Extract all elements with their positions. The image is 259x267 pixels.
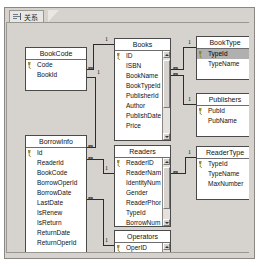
cardinality-many-borrowinfo-bookcode: ∞ <box>88 143 93 149</box>
field-row[interactable]: ReturnDate <box>26 228 86 238</box>
table-field-list[interactable]: IdReaderIdBookCodeBorrowOperIdBorrowDate… <box>26 148 86 253</box>
field-row[interactable]: BookCode <box>26 168 86 178</box>
field-row[interactable]: BookId <box>26 70 86 80</box>
field-row[interactable]: PubId <box>197 106 249 116</box>
cardinality-one-borrowinfo-bookcode: 1 <box>97 69 100 75</box>
cardinality-many-books-publishers: ∞ <box>173 71 178 77</box>
table-title: ReaderType <box>197 147 249 159</box>
field-name: BookId <box>37 71 57 78</box>
field-row[interactable]: Gender <box>115 188 161 198</box>
table-publishers[interactable]: PublishersPubIdPubName <box>196 93 249 137</box>
field-name: BookName <box>126 72 158 79</box>
field-row[interactable]: Code <box>26 60 86 70</box>
field-row[interactable]: ReaderPhone <box>115 198 161 208</box>
field-name: ReturnOperId <box>37 239 76 246</box>
field-row[interactable]: IsReturn <box>26 218 86 228</box>
field-name: Code <box>37 61 53 68</box>
primary-key-icon <box>117 53 124 60</box>
scroll-up-icon[interactable] <box>163 158 170 165</box>
table-field-list[interactable]: TypeIdTypeName <box>197 49 249 79</box>
cardinality-many-readers-readertype: ∞ <box>173 169 178 175</box>
field-row[interactable]: PublishDate <box>115 111 161 121</box>
field-name: Id <box>37 149 42 156</box>
vertical-scrollbar[interactable] <box>162 158 170 226</box>
field-row[interactable]: Id <box>26 148 86 158</box>
scroll-up-icon[interactable] <box>163 51 170 58</box>
field-row[interactable]: ISBN <box>115 61 161 71</box>
primary-key-icon <box>28 150 35 157</box>
field-row[interactable]: IsRenew <box>26 208 86 218</box>
field-row[interactable]: BookName <box>115 71 161 81</box>
field-row[interactable]: ReaderId <box>26 158 86 168</box>
field-row[interactable]: IdentityNum <box>115 178 161 188</box>
primary-key-icon <box>117 160 124 167</box>
field-name: BorrowOperId <box>37 179 77 186</box>
table-booktype[interactable]: BookTypeTypeIdTypeName <box>196 36 249 80</box>
field-name: ID <box>126 52 133 59</box>
field-row[interactable]: TypeName <box>197 169 249 179</box>
field-row[interactable]: LastDate <box>26 198 86 208</box>
table-field-list[interactable]: ReaderIDReaderNameIdentityNumGenderReade… <box>115 158 170 226</box>
table-field-list[interactable]: IDISBNBookNameBookTypeIdPublisherIdAutho… <box>115 51 170 140</box>
field-row[interactable]: OperID <box>115 243 161 253</box>
field-row[interactable]: ID <box>115 51 161 61</box>
connector-borrowinfo-readers <box>87 159 114 173</box>
table-field-list[interactable]: PubIdPubName <box>197 106 249 136</box>
connector-borrowinfo-bookcode <box>87 77 95 147</box>
field-rows: IdReaderIdBookCodeBorrowOperIdBorrowDate… <box>26 148 86 253</box>
table-title: BookCode <box>26 48 86 60</box>
table-operators[interactable]: OperatorsOperIDOperNameGenderLoginName <box>114 230 171 253</box>
field-row[interactable]: ReaderID <box>115 158 161 168</box>
cardinality-many-bookcode-books: ∞ <box>88 65 93 71</box>
primary-key-icon <box>199 51 206 58</box>
vertical-scrollbar[interactable] <box>162 243 170 253</box>
table-readers[interactable]: ReadersReaderIDReaderNameIdentityNumGend… <box>114 145 171 227</box>
field-row[interactable]: BorrowDate <box>26 188 86 198</box>
table-readertype[interactable]: ReaderTypeTypeIdTypeNameMaxNumber <box>196 146 249 200</box>
field-row[interactable]: PublisherId <box>115 91 161 101</box>
primary-key-icon <box>117 245 124 252</box>
field-row[interactable]: BorrowOperId <box>26 178 86 188</box>
field-row[interactable]: BorrowNum <box>115 218 161 226</box>
table-title: Books <box>115 39 170 51</box>
field-name: BookTypeId <box>126 82 160 89</box>
table-field-list[interactable]: CodeBookId <box>26 60 86 90</box>
field-name: ReaderID <box>126 159 154 166</box>
scrollbar-thumb[interactable] <box>163 60 170 108</box>
primary-key-icon <box>28 62 35 69</box>
relationships-canvas[interactable]: 1 ∞ 1 ∞ 1 ∞ 1 ∞ 1 ∞ 1 ∞ 1 ∞ BookCodeCode… <box>6 22 249 253</box>
field-name: ReaderId <box>37 159 64 166</box>
field-row[interactable]: Author <box>115 101 161 111</box>
table-bookcode[interactable]: BookCodeCodeBookId <box>25 47 87 91</box>
field-row[interactable]: Price <box>115 121 161 131</box>
scroll-down-icon[interactable] <box>163 133 170 140</box>
vertical-scrollbar[interactable] <box>162 51 170 140</box>
field-row[interactable]: TypeId <box>197 49 249 59</box>
field-row[interactable]: TypeId <box>115 208 161 218</box>
scroll-up-icon[interactable] <box>163 243 170 250</box>
field-name: Author <box>126 102 145 109</box>
relationships-icon <box>13 13 22 21</box>
field-rows: PubIdPubName <box>197 106 249 136</box>
table-books[interactable]: BooksIDISBNBookNameBookTypeIdPublisherId… <box>114 38 171 141</box>
table-field-list[interactable]: OperIDOperNameGenderLoginName <box>115 243 170 253</box>
field-row[interactable]: BookTypeId <box>115 81 161 91</box>
field-rows: ReaderIDReaderNameIdentityNumGenderReade… <box>115 158 161 226</box>
table-borrowinfo[interactable]: BorrowInfoIdReaderIdBookCodeBorrowOperId… <box>25 135 87 253</box>
field-row[interactable]: MaxNumber <box>197 179 249 189</box>
field-name: BorrowDate <box>37 189 71 196</box>
scrollbar-thumb[interactable] <box>163 252 170 253</box>
cardinality-one-books-booktype: 1 <box>188 39 191 45</box>
field-row[interactable]: ReturnOperId <box>26 238 86 248</box>
table-field-list[interactable]: TypeIdTypeNameMaxNumber <box>197 159 249 199</box>
field-name: PublisherId <box>126 92 159 99</box>
table-title: Publishers <box>197 94 249 106</box>
field-name: PubName <box>208 117 237 124</box>
field-row[interactable]: TypeId <box>197 159 249 169</box>
scrollbar-thumb[interactable] <box>163 167 170 209</box>
field-row[interactable]: PubName <box>197 116 249 126</box>
scroll-down-icon[interactable] <box>163 219 170 226</box>
field-row[interactable]: ReaderName <box>115 168 161 178</box>
cardinality-one-readers-readertype: 1 <box>188 149 191 155</box>
field-row[interactable]: TypeName <box>197 59 249 69</box>
